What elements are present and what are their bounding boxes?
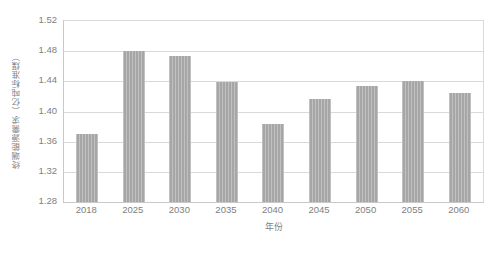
x-axis-tick-label: 2035 [215, 205, 236, 215]
bar [262, 124, 284, 202]
bar-slot [204, 21, 251, 202]
x-axis-tick-label: 2045 [308, 205, 329, 215]
y-axis-tick-label: 1.40 [39, 106, 58, 116]
bar-slot [111, 21, 158, 202]
bar-slot [64, 21, 111, 202]
bar [216, 82, 238, 202]
x-axis-tick-label: 2018 [76, 205, 97, 215]
bar [309, 99, 331, 202]
y-axis-tick-label: 1.28 [39, 196, 58, 206]
y-axis-tick-label: 1.52 [39, 15, 58, 25]
bar-slot [157, 21, 204, 202]
bar [123, 51, 145, 202]
bar-slot [250, 21, 297, 202]
y-axis-tick-label: 1.48 [39, 45, 58, 55]
bar [449, 93, 471, 202]
y-axis-tick-label: 1.36 [39, 136, 58, 146]
x-axis-tick-label: 2055 [402, 205, 423, 215]
y-axis-title-label: 终端能源需求（亿吨标准煤） [13, 52, 22, 169]
y-axis-tick-label: 1.32 [39, 166, 58, 176]
x-axis-tick-label: 2040 [262, 205, 283, 215]
y-axis-title: 终端能源需求（亿吨标准煤） [6, 0, 28, 220]
x-axis-tick-labels: 201820252030203520402045205020552060 [63, 205, 484, 221]
plot-area [63, 20, 484, 203]
x-axis-tick-label: 2060 [448, 205, 469, 215]
bar [169, 56, 191, 202]
bar-slot [297, 21, 344, 202]
bar [402, 81, 424, 202]
bar-slot [390, 21, 437, 202]
bars-container [64, 21, 483, 202]
bar-slot [343, 21, 390, 202]
x-axis-tick-label: 2050 [355, 205, 376, 215]
bar [76, 134, 98, 202]
x-axis-title: 年份 [63, 223, 484, 232]
y-axis-tick-label: 1.44 [39, 76, 58, 86]
bar-chart: 终端能源需求（亿吨标准煤） 1.521.481.441.401.361.321.… [0, 0, 494, 266]
x-axis-tick-label: 2030 [169, 205, 190, 215]
bar [356, 86, 378, 202]
y-axis-tick-labels: 1.521.481.441.401.361.321.28 [26, 0, 60, 266]
x-axis-tick-label: 2025 [122, 205, 143, 215]
bar-slot [436, 21, 483, 202]
